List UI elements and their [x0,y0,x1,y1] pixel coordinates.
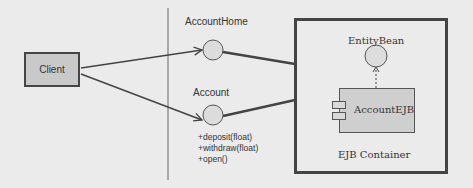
account-interface-icon [203,105,223,125]
operation-deposit: +deposit(float) [198,132,258,143]
entitybean-label: EntityBean [348,36,404,46]
component-port-icon-bottom [332,112,346,120]
client-node: Client [24,52,80,87]
edge-client-accounthome [81,50,202,68]
component-port-icon-top [332,101,346,109]
accountejb-label: AccountEJB [354,104,414,115]
accounthome-label: AccountHome [185,17,248,27]
client-label: Client [39,64,65,75]
account-operations: +deposit(float) +withdraw(float) +open() [198,132,258,165]
operation-open: +open() [198,154,258,165]
operation-withdraw: +withdraw(float) [198,143,258,154]
edge-client-account [81,74,202,120]
accounthome-interface-icon [203,40,223,60]
accountejb-component: AccountEJB [339,88,415,133]
account-label: Account [193,88,229,98]
edge-accounthome-container [223,52,295,64]
ejb-container-label: EJB Container [338,150,410,160]
edge-account-container [223,100,295,116]
